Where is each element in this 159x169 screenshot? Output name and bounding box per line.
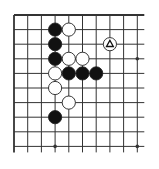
- black-stone-disc: [49, 23, 62, 36]
- grid-lines: [14, 15, 144, 152]
- black-stone: [62, 67, 75, 80]
- black-stone: [90, 67, 103, 80]
- white-stone-disc: [76, 52, 89, 65]
- white-stone: [76, 52, 89, 65]
- black-stone-disc: [49, 52, 62, 65]
- star-point: [53, 145, 57, 149]
- star-point: [136, 145, 140, 149]
- black-stone-disc: [76, 67, 89, 80]
- white-stone: [49, 67, 62, 80]
- black-stone: [49, 111, 62, 124]
- black-stone: [49, 52, 62, 65]
- white-stone-marked: [103, 38, 116, 51]
- black-stone: [49, 38, 62, 51]
- black-stone-disc: [62, 67, 75, 80]
- white-stone-disc: [62, 96, 75, 109]
- white-stone: [62, 23, 75, 36]
- black-stone-disc: [49, 38, 62, 51]
- white-stone-disc: [49, 81, 62, 94]
- black-stone-disc: [90, 67, 103, 80]
- go-board: [0, 0, 159, 169]
- white-stone-disc: [62, 52, 75, 65]
- white-stone: [62, 52, 75, 65]
- white-stone: [62, 96, 75, 109]
- black-stone: [76, 67, 89, 80]
- white-stone-disc: [49, 67, 62, 80]
- white-stone: [49, 81, 62, 94]
- star-point: [136, 57, 140, 61]
- black-stone: [49, 23, 62, 36]
- white-stone-disc: [62, 23, 75, 36]
- black-stone-disc: [49, 111, 62, 124]
